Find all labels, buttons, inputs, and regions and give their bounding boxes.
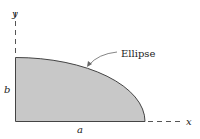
quarter-ellipse-diagram: y x b a Ellipse: [0, 0, 200, 139]
arrowhead-icon: [87, 61, 92, 67]
quarter-ellipse-area: [16, 58, 146, 122]
y-axis-label: y: [11, 8, 18, 19]
ellipse-label: Ellipse: [121, 48, 155, 59]
width-label: a: [77, 124, 83, 135]
ellipse-leader-line: [89, 52, 117, 65]
x-axis-label: x: [186, 116, 192, 127]
height-label: b: [4, 84, 10, 95]
